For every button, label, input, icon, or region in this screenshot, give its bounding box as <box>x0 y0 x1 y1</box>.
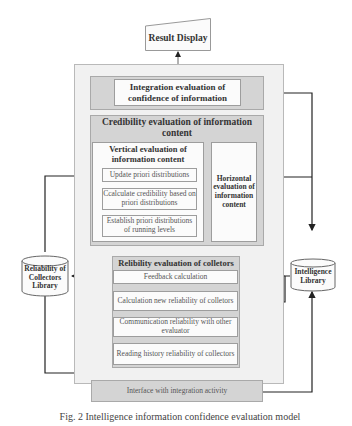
step-feedback-calculation: Feedback calculation <box>113 270 238 284</box>
result-display-label: Result Display <box>149 33 208 44</box>
reliability-collectors-library: Reliability of Collectors Library <box>21 255 69 297</box>
result-display: Result Display <box>145 18 211 51</box>
step-reading-history: Reading history reliability of collector… <box>113 343 238 365</box>
interface-box: Interface with integration activity <box>91 380 263 402</box>
step-communication-reliability: Communication reliability with other eva… <box>113 317 238 337</box>
step-new-reliability: Calculation new reliability of colletors <box>113 291 238 311</box>
integration-box: Integration evaluation of confidence of … <box>114 79 241 106</box>
step-calculate-credibility: Ccalculate credibility based on priori d… <box>102 188 197 210</box>
figure-caption: Fig. 2 Intelligence information confiden… <box>30 408 330 426</box>
integration-label: Integration evaluation of confidence of … <box>115 82 240 103</box>
credibility-title: Credibility evaluation of information co… <box>95 115 259 141</box>
step-update-priori: Update priori distributions <box>102 168 197 182</box>
step-establish-priori: Establish priori distributions of runnin… <box>102 215 197 237</box>
intelligence-library: Intelligence Library <box>290 258 336 292</box>
vertical-evaluation-title: Vertical evaluation of information conte… <box>95 144 201 166</box>
horizontal-evaluation-box: Horizontal evaluation of information con… <box>211 142 257 242</box>
reliability-title: Relibility evaluation of colletors <box>112 257 240 271</box>
